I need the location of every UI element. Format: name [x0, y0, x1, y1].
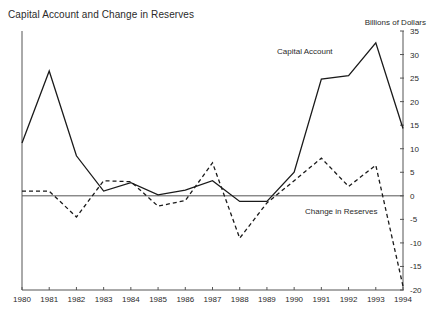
y-tick-label: 0 — [410, 192, 415, 201]
x-tick-label: 1982 — [68, 295, 86, 304]
y-tick-label: 5 — [410, 168, 415, 177]
series-line-change-in-reserves — [22, 158, 403, 286]
chart-plot-area: -20-15-10-505101520253035 19801981198219… — [0, 0, 438, 310]
y-tick-label: 35 — [410, 27, 419, 36]
page-title: Capital Account and Change in Reserves — [8, 9, 194, 20]
x-tick-label: 1990 — [285, 295, 303, 304]
x-tick-label: 1994 — [394, 295, 412, 304]
y-tick-label: -10 — [410, 239, 422, 248]
axes-group — [22, 31, 403, 290]
y-tick-label: -20 — [410, 286, 422, 295]
y-tick-label: -5 — [410, 215, 418, 224]
x-tick-label: 1992 — [340, 295, 358, 304]
chart-figure: Capital Account and Change in Reserves B… — [0, 0, 438, 310]
y-tick-label: 30 — [410, 51, 419, 60]
x-tick-label: 1983 — [95, 295, 113, 304]
x-tick-label: 1980 — [13, 295, 31, 304]
x-tick-label: 1985 — [149, 295, 167, 304]
series-line-capital-account — [22, 43, 403, 202]
x-tick-label: 1981 — [40, 295, 58, 304]
y-axis-unit-label: Billions of Dollars — [365, 18, 426, 27]
series-label-capital-account: Capital Account — [277, 47, 333, 56]
series-label-change-in-reserves: Change in Reserves — [305, 207, 377, 216]
x-tick-label: 1984 — [122, 295, 140, 304]
x-tick-label: 1986 — [176, 295, 194, 304]
y-tick-label: 20 — [410, 98, 419, 107]
x-tick-label: 1987 — [204, 295, 222, 304]
x-tick-label: 1993 — [367, 295, 385, 304]
y-tick-label: 15 — [410, 121, 419, 130]
x-tick-label: 1988 — [231, 295, 249, 304]
x-tick-label: 1989 — [258, 295, 276, 304]
y-tick-label: 10 — [410, 145, 419, 154]
y-tick-label: -15 — [410, 262, 422, 271]
x-tick-label: 1991 — [312, 295, 330, 304]
y-tick-label: 25 — [410, 74, 419, 83]
